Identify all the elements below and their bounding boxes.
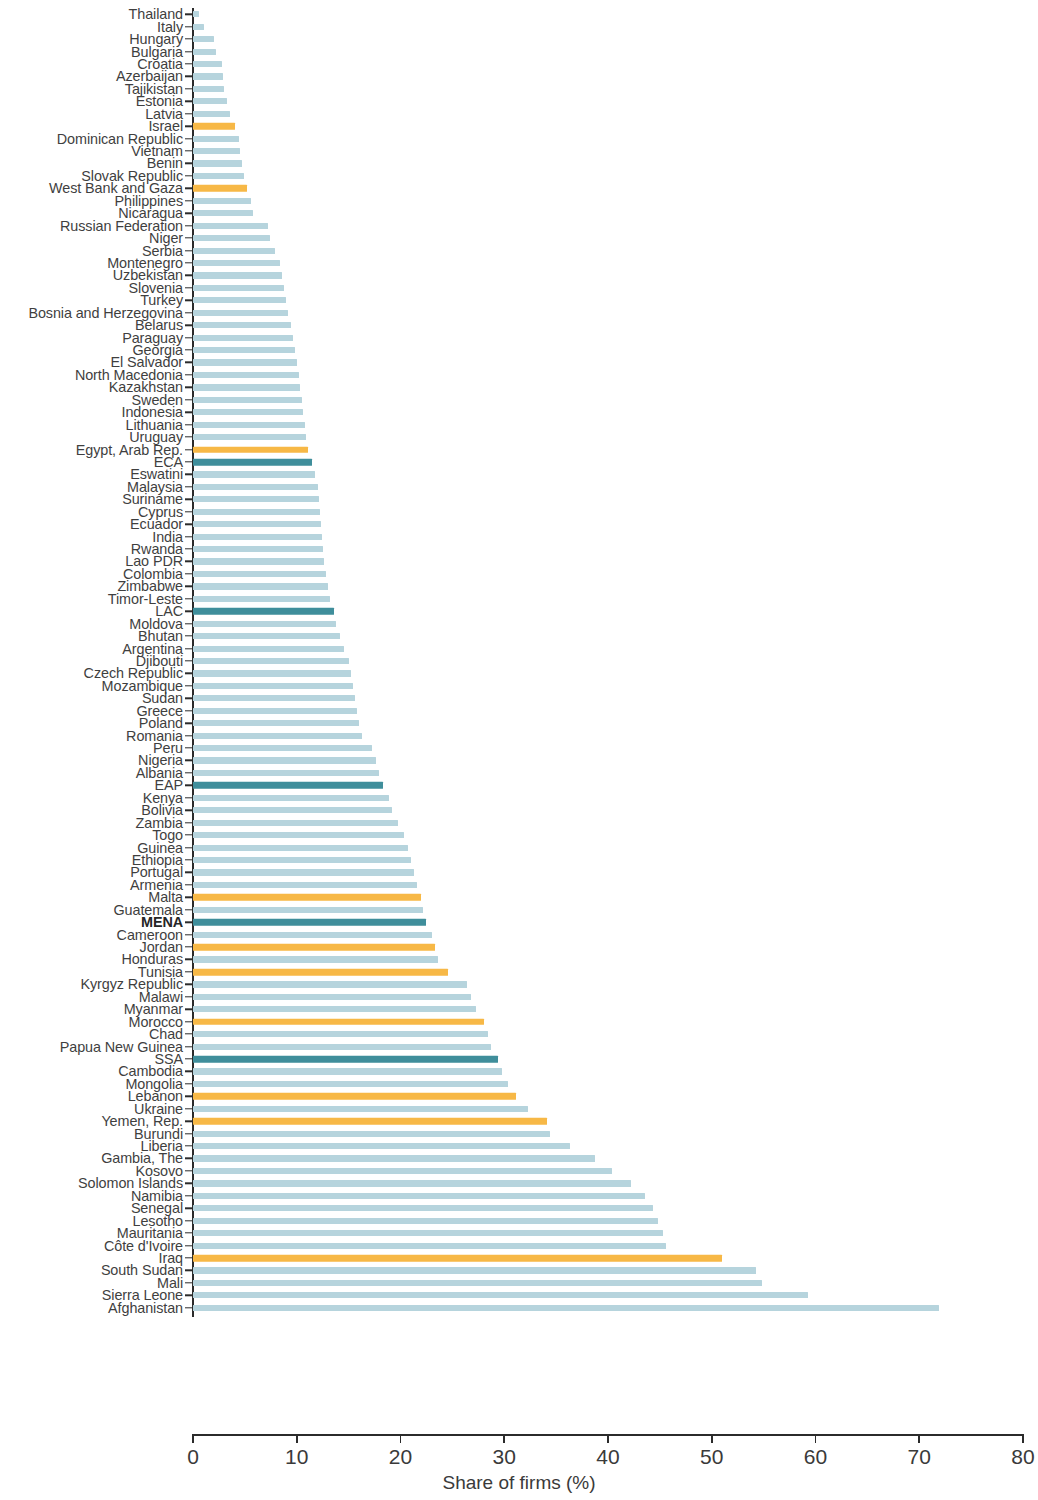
bar [193, 708, 357, 714]
y-axis-tick [185, 1021, 193, 1022]
bar [193, 534, 322, 540]
y-axis-tick [185, 660, 193, 661]
bar-row: Afghanistan [0, 1302, 1038, 1314]
plot-area: ThailandItalyHungaryBulgariaCroatiaAzerb… [0, 0, 1038, 1500]
y-axis-tick [185, 486, 193, 487]
bar [193, 956, 438, 962]
y-axis-tick [185, 1245, 193, 1246]
bar [193, 733, 362, 739]
y-axis-tick [185, 971, 193, 972]
x-axis-tick [296, 1434, 298, 1443]
bar [193, 1280, 762, 1286]
bar [193, 1205, 653, 1211]
bar [193, 633, 340, 639]
y-axis-tick [185, 474, 193, 475]
y-axis-tick [185, 586, 193, 587]
y-axis-tick [185, 1133, 193, 1134]
y-axis-tick [185, 673, 193, 674]
bar [193, 695, 355, 701]
bar [193, 347, 295, 353]
y-axis-tick [185, 698, 193, 699]
x-axis-tick-label: 80 [1011, 1445, 1034, 1469]
y-axis-tick [185, 623, 193, 624]
bar [193, 832, 404, 838]
bar [193, 235, 270, 241]
y-axis-tick [185, 859, 193, 860]
bar [193, 1180, 631, 1186]
y-axis-tick [185, 1195, 193, 1196]
bar [193, 683, 353, 689]
bar [193, 198, 251, 204]
x-axis-title: Share of firms (%) [0, 1472, 1038, 1494]
y-axis-tick [185, 946, 193, 947]
y-axis-tick [185, 374, 193, 375]
y-axis-tick [185, 810, 193, 811]
bar [193, 335, 293, 341]
y-axis-tick [185, 150, 193, 151]
bar [193, 670, 351, 676]
bar [193, 521, 321, 527]
bar [193, 1118, 547, 1125]
y-axis-tick [185, 959, 193, 960]
y-axis-tick [185, 63, 193, 64]
bar [193, 608, 334, 615]
bar [193, 260, 280, 266]
bar [193, 1292, 808, 1298]
bar [193, 148, 240, 154]
bar [193, 24, 204, 30]
y-axis-tick [185, 1170, 193, 1171]
y-axis-tick [185, 797, 193, 798]
bar [193, 932, 432, 938]
bar [193, 645, 344, 651]
y-axis-tick [185, 88, 193, 89]
bar [193, 596, 330, 602]
y-axis-tick [185, 1071, 193, 1072]
x-axis-tick-label: 70 [908, 1445, 931, 1469]
bar [193, 1068, 502, 1074]
bar [193, 894, 421, 901]
y-axis-tick [185, 1307, 193, 1308]
y-axis-tick [185, 387, 193, 388]
bar [193, 1255, 722, 1262]
y-axis-tick [185, 747, 193, 748]
bar [193, 944, 435, 951]
bar [193, 111, 230, 117]
y-axis-tick [185, 760, 193, 761]
bar [193, 1131, 550, 1137]
x-axis-tick-label: 10 [285, 1445, 308, 1469]
bar [193, 807, 392, 813]
y-axis-tick [185, 324, 193, 325]
y-axis-tick [185, 113, 193, 114]
bar [193, 1218, 658, 1224]
horizontal-bar-chart: ThailandItalyHungaryBulgariaCroatiaAzerb… [0, 0, 1038, 1500]
y-axis-tick [185, 1220, 193, 1221]
bar [193, 247, 275, 253]
y-axis-tick [185, 872, 193, 873]
y-axis-tick [185, 262, 193, 263]
bar [193, 882, 417, 888]
y-axis-tick [185, 921, 193, 922]
y-axis-tick [185, 772, 193, 773]
y-axis-tick [185, 424, 193, 425]
y-axis-tick [185, 76, 193, 77]
bar [193, 272, 282, 278]
bar [193, 571, 326, 577]
y-axis-tick [185, 822, 193, 823]
y-axis-tick [185, 175, 193, 176]
x-axis-tick [400, 1434, 402, 1443]
y-axis-tick [185, 785, 193, 786]
bar [193, 969, 448, 976]
y-axis-tick [185, 897, 193, 898]
bar [193, 844, 408, 850]
y-axis-tick [185, 1108, 193, 1109]
y-axis-tick [185, 449, 193, 450]
bar-row: Thailand [0, 8, 1038, 20]
bar [193, 322, 291, 328]
bar [193, 720, 359, 726]
y-axis-tick [185, 1208, 193, 1209]
bar [193, 1031, 488, 1037]
y-axis-tick [185, 287, 193, 288]
y-axis-tick [185, 735, 193, 736]
y-axis-tick [185, 573, 193, 574]
bar [193, 11, 199, 17]
